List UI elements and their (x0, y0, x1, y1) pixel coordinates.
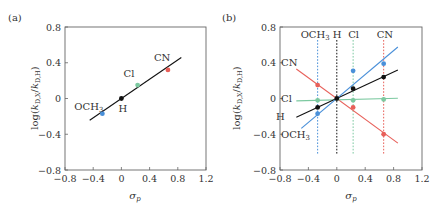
vline-label-och3: OCH3 (301, 29, 330, 42)
a-y-tick-label: −0.8 (38, 165, 61, 176)
b-y-tick-label: −0.8 (253, 165, 276, 176)
data-point-h (334, 96, 339, 101)
plot-frame-a (65, 27, 206, 170)
b-x-tick-label: 1.2 (414, 173, 429, 184)
data-point-h (315, 105, 320, 110)
fit-line (90, 57, 182, 120)
data-point-och3 (315, 111, 320, 116)
series-line-cn (296, 69, 398, 143)
vline-label-h: H (333, 29, 342, 40)
point-label-cl: Cl (124, 68, 135, 79)
vline-label-cn: CN (377, 29, 394, 40)
panel-label-a: (a) (8, 12, 22, 23)
panel-label-b: (b) (222, 12, 236, 23)
data-point-och3 (351, 68, 356, 73)
a-y-tick-label: 0.8 (46, 22, 61, 33)
b-y-tick-label: 0.4 (261, 57, 276, 68)
series-label-h: H (276, 111, 285, 122)
data-point-cl (135, 83, 140, 88)
b-x-tick-label: 0.8 (386, 173, 401, 184)
chart-panel-b: (b) −0.8−0.400.40.81.2−0.8−0.400.40.8 OC… (222, 12, 430, 203)
a-x-tick-label: −0.4 (82, 173, 105, 184)
plot-frame-b (280, 27, 422, 170)
a-y-tick-label: −0.4 (38, 129, 61, 140)
a-x-tick-label: 1.2 (198, 173, 213, 184)
axis-ticks-b: −0.8−0.400.40.81.2−0.8−0.400.40.8 (253, 22, 430, 185)
data-point-h (351, 86, 356, 91)
data-marks-b: OCH3HClCNCNClHOCH3 (276, 29, 398, 155)
series-label-cn: CN (281, 57, 298, 68)
data-point-cl (381, 97, 386, 102)
data-marks-a: OCH3HClCN (74, 52, 181, 120)
b-x-tick-label: −0.4 (297, 173, 320, 184)
series-line-och3 (301, 47, 398, 128)
point-label-h: H (118, 103, 127, 114)
point-label-och3: OCH3 (74, 101, 103, 114)
data-point-cl (315, 98, 320, 103)
data-point-h (381, 75, 386, 80)
point-label-cn: CN (154, 52, 171, 63)
data-point-cn (166, 68, 171, 73)
a-x-tick-label: 0.4 (142, 173, 157, 184)
b-x-tick-label: 0 (334, 173, 340, 184)
vline-label-cl: Cl (348, 29, 359, 40)
a-y-tick-label: 0.4 (46, 57, 61, 68)
a-x-tick-label: 0 (118, 173, 124, 184)
series-label-och3: OCH3 (281, 129, 310, 142)
data-point-och3 (381, 61, 386, 66)
b-x-tick-label: 0.4 (358, 173, 373, 184)
a-y-tick-label: 0 (55, 93, 61, 104)
data-point-h (119, 96, 124, 101)
chart-panel-a: (a) −0.8−0.400.40.81.2−0.8−0.400.40.8 OC… (8, 12, 214, 203)
y-axis-title-a: log(kD,X/kD,H) (29, 66, 42, 129)
y-axis-title-b: log(kD,X/kD,H) (231, 66, 244, 129)
b-y-tick-label: −0.4 (253, 129, 276, 140)
data-point-cn (315, 83, 320, 88)
b-y-tick-label: 0 (270, 93, 276, 104)
b-y-tick-label: 0.8 (261, 22, 276, 33)
a-x-tick-label: 0.8 (170, 173, 185, 184)
x-axis-title-b: σp (345, 190, 357, 203)
data-point-cl (351, 98, 356, 103)
data-point-cn (381, 132, 386, 137)
data-point-cn (351, 105, 356, 110)
figure: (a) −0.8−0.400.40.81.2−0.8−0.400.40.8 OC… (0, 0, 434, 208)
x-axis-title-a: σp (129, 190, 141, 203)
series-label-cl: Cl (281, 93, 292, 104)
